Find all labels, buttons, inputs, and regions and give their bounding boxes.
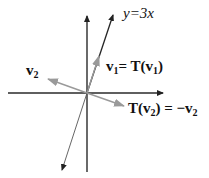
vector-Tv2-arrow <box>87 93 124 106</box>
v2-label: v2 <box>26 63 39 80</box>
v1-close: ) <box>158 58 163 74</box>
vector-v1-arrow <box>87 56 99 93</box>
v1-label: v1= T(v1) <box>106 59 163 76</box>
v2-sub: 2 <box>34 69 39 80</box>
Tv2-sub2: 2 <box>193 107 198 118</box>
Tv2-mid: ) = −v <box>156 100 193 116</box>
v1-name: v <box>106 58 114 74</box>
line-label-text: y=3x <box>123 5 154 21</box>
diagram-graphics <box>0 0 209 178</box>
Tv2-prefix: T(v <box>128 100 151 116</box>
v1-eq: = T(v <box>119 58 154 74</box>
vector-v2-arrow <box>48 79 87 93</box>
diagram-canvas: y=3x v2 v1= T(v1) T(v2) = −v2 <box>0 0 209 178</box>
v2-name: v <box>26 62 34 78</box>
line-label: y=3x <box>123 6 154 21</box>
Tv2-label: T(v2) = −v2 <box>128 101 198 118</box>
